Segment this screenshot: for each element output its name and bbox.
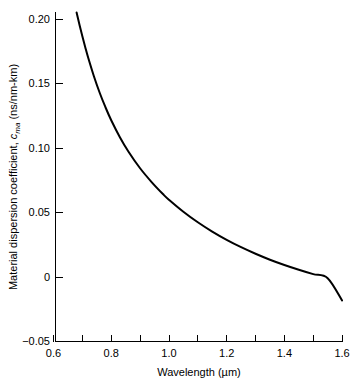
x-tick-label-1: 0.8 [104,347,119,359]
y-tick-label-1: 0.15 [29,77,50,89]
y-tick-label-5: −0.05 [22,335,50,347]
chart-background [0,0,359,384]
x-tick-label-2: 1.0 [161,347,176,359]
y-tick-label-3: 0.05 [29,206,50,218]
chart-canvas: 0.20 0.15 0.10 0.05 0 −0.05 0.6 0.8 1.0 … [0,0,359,384]
x-axis-title: Wavelength (µm) [157,366,241,378]
y-tick-label-4: 0 [44,271,50,283]
y-tick-label-2: 0.10 [29,142,50,154]
x-tick-label-0: 0.6 [46,347,61,359]
x-tick-label-3: 1.2 [219,347,234,359]
y-axis-title-units: (ns/nm-km) [7,64,19,123]
x-tick-label-4: 1.4 [277,347,292,359]
material-dispersion-chart: 0.20 0.15 0.10 0.05 0 −0.05 0.6 0.8 1.0 … [0,0,359,384]
y-axis-title-subscript: ma [13,122,22,134]
x-tick-label-5: 1.6 [334,347,349,359]
y-axis-title-prefix: Material dispersion coefficient, [7,139,19,290]
y-tick-label-0: 0.20 [29,13,50,25]
